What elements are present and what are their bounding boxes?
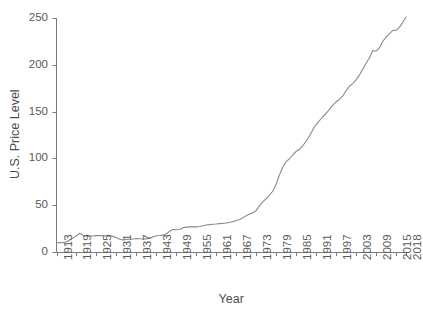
x-axis-title: Year <box>191 292 271 306</box>
x-tick-label: 2018 <box>412 234 423 260</box>
x-tick-label: 1925 <box>102 234 114 260</box>
x-tick-label: 1937 <box>142 234 154 260</box>
x-tick-label: 2009 <box>382 234 394 260</box>
x-tick-label: 1913 <box>63 234 75 260</box>
y-tick-label: 200 <box>12 59 48 71</box>
y-tick-label: 250 <box>12 12 48 24</box>
x-tick-label: 1961 <box>222 234 234 260</box>
x-tick-label: 1955 <box>202 234 214 260</box>
x-tick-label: 1943 <box>162 234 174 260</box>
y-tick-label: 50 <box>12 199 48 211</box>
axes <box>57 18 407 253</box>
x-tick-label: 1931 <box>122 234 134 260</box>
y-tick-label: 0 <box>12 246 48 258</box>
x-tick-label: 1973 <box>262 234 274 260</box>
x-tick-label: 1967 <box>242 234 254 260</box>
y-axis-ticks <box>53 19 57 253</box>
price-level-line <box>57 17 407 243</box>
x-tick-label: 1919 <box>82 234 94 260</box>
y-axis-title: U.S. Price Level <box>8 89 22 179</box>
x-tick-label: 1985 <box>302 234 314 260</box>
x-tick-label: 2003 <box>362 234 374 260</box>
x-tick-label: 1979 <box>282 234 294 260</box>
x-tick-label: 1991 <box>322 234 334 260</box>
x-tick-label: 1949 <box>182 234 194 260</box>
x-tick-label: 1997 <box>342 234 354 260</box>
